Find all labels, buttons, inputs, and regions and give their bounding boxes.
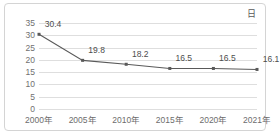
data-point-marker [256,68,259,71]
data-label: 18.2 [132,50,149,59]
y-axis-tick-label: 5 [30,92,35,101]
plot-area: 05101520253035 2000年2005年2010年2015年2020年… [39,23,257,109]
y-axis-tick-label: 15 [26,68,35,77]
x-axis-tick-label: 2015年 [156,115,184,125]
y-axis-tick-label: 10 [26,80,35,89]
data-point-marker [168,67,171,70]
y-axis-tick-label: 35 [26,19,35,28]
x-axis-tick-label: 2020年 [199,115,227,125]
x-axis-tick-label: 2005年 [69,115,97,125]
x-axis-tick-label: 2021年 [243,115,271,125]
data-label: 16.1 [263,55,272,64]
data-label: 19.8 [88,46,105,55]
data-label: 30.4 [45,20,62,29]
data-point-marker [212,67,215,70]
chart-legend: 日 [247,9,256,20]
x-axis-tick-label: 2000年 [25,115,53,125]
data-label: 16.5 [219,54,236,63]
legend-label-day: 日 [247,9,256,19]
data-point-marker [38,33,41,36]
y-axis-tick-label: 30 [26,31,35,40]
x-axis-tick-label: 2010年 [112,115,140,125]
chart-container: 日 05101520253035 2000年2005年2010年2015年202… [4,3,266,131]
y-axis-tick-label: 20 [26,55,35,64]
gridline [39,109,257,110]
y-axis-tick-label: 0 [30,105,35,114]
data-label: 16.5 [176,54,193,63]
data-point-marker [81,59,84,62]
series-line-day [39,23,257,109]
y-axis-tick-label: 25 [26,43,35,52]
data-point-marker [125,63,128,66]
